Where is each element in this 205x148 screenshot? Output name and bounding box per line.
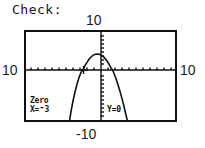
axis-label-xmin: 10 xyxy=(2,62,18,78)
readout-x-prefix: X= xyxy=(30,105,39,114)
readout-y-value: Y=0 xyxy=(107,105,121,114)
readout-x-number: 3 xyxy=(44,105,49,114)
readout-x-negative-sign: - xyxy=(39,102,44,112)
y-axis-ticks xyxy=(101,36,104,116)
axis-label-xmax: 10 xyxy=(180,62,196,78)
page-title: Check: xyxy=(12,2,62,17)
axis-label-ymin: -10 xyxy=(76,126,96,142)
axis-label-ymax: 10 xyxy=(86,12,102,28)
graphing-calculator-screen: Zero X=-3 Y=0 xyxy=(24,30,177,122)
readout-x-value: X=-3 xyxy=(30,105,49,114)
